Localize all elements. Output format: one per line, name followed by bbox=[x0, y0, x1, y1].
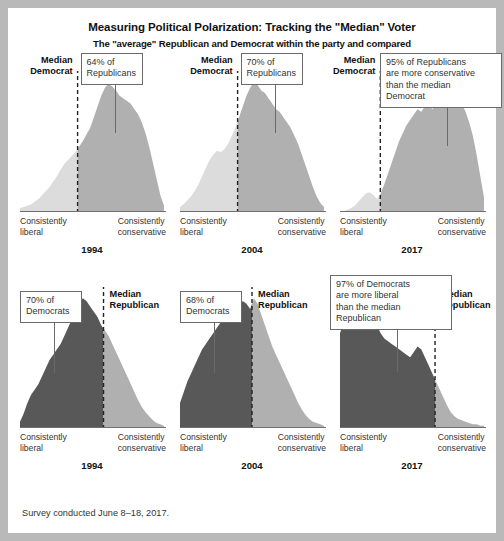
panel-year-label: 1994 bbox=[16, 460, 168, 471]
panel-republicans-2004: Consistently liberalConsistently conserv… bbox=[176, 53, 328, 265]
x-axis-line bbox=[20, 211, 166, 212]
median-label: Median Republican bbox=[258, 289, 308, 311]
callout-leader-line bbox=[54, 323, 55, 373]
callout-leader-line bbox=[397, 330, 398, 372]
axis-label-liberal: Consistently liberal bbox=[20, 432, 67, 453]
axis-label-conservative: Consistently conservative bbox=[278, 216, 326, 237]
panel-year-label: 2017 bbox=[336, 244, 488, 255]
callout-leader-line bbox=[275, 85, 276, 133]
panel-year-label: 2017 bbox=[336, 460, 488, 471]
median-label: Median Democrat bbox=[30, 55, 72, 77]
axis-label-liberal: Consistently liberal bbox=[180, 432, 227, 453]
callout-box: 70% of Republicans bbox=[241, 53, 303, 85]
panel-republicans-1994: Consistently liberalConsistently conserv… bbox=[16, 53, 168, 265]
x-axis-line bbox=[340, 211, 486, 212]
axis-label-liberal: Consistently liberal bbox=[340, 432, 387, 453]
panel-republicans-2017: Consistently liberalConsistently conserv… bbox=[336, 53, 488, 265]
panel-year-label: 1994 bbox=[16, 244, 168, 255]
axis-label-conservative: Consistently conservative bbox=[438, 432, 486, 453]
survey-note: Survey conducted June 8–18, 2017. bbox=[22, 508, 169, 518]
callout-box: 95% of Republicans are more conservative… bbox=[380, 53, 502, 108]
axis-label-liberal: Consistently liberal bbox=[340, 216, 387, 237]
axis-label-conservative: Consistently conservative bbox=[278, 432, 326, 453]
panel-democrats-2017: Consistently liberalConsistently conserv… bbox=[336, 269, 488, 481]
chart-row-democrats: Consistently liberalConsistently conserv… bbox=[8, 269, 496, 481]
panel-democrats-2004: Consistently liberalConsistently conserv… bbox=[176, 269, 328, 481]
chart-row-republicans: Consistently liberalConsistently conserv… bbox=[8, 53, 496, 265]
panel-year-label: 2004 bbox=[176, 460, 328, 471]
x-axis-line bbox=[180, 427, 326, 428]
x-axis-line bbox=[340, 427, 486, 428]
callout-box: 64% of Republicans bbox=[81, 53, 143, 85]
distribution-plot bbox=[176, 71, 328, 211]
callout-leader-line bbox=[115, 85, 116, 133]
area-right bbox=[20, 84, 164, 211]
infographic-page: Measuring Political Polarization: Tracki… bbox=[8, 8, 496, 533]
page-subtitle: The "average" Republican and Democrat wi… bbox=[8, 38, 496, 49]
median-label: Median Democrat bbox=[333, 55, 375, 77]
panel-year-label: 2004 bbox=[176, 244, 328, 255]
callout-box: 97% of Democrats are more liberal than t… bbox=[330, 275, 452, 330]
page-title: Measuring Political Polarization: Tracki… bbox=[8, 21, 496, 33]
distribution-plot bbox=[16, 71, 168, 211]
median-label: Median Democrat bbox=[190, 55, 232, 77]
x-axis-line bbox=[20, 427, 166, 428]
callout-leader-line bbox=[214, 323, 215, 373]
axis-label-conservative: Consistently conservative bbox=[118, 216, 166, 237]
x-axis-line bbox=[180, 211, 326, 212]
axis-label-conservative: Consistently conservative bbox=[118, 432, 166, 453]
median-label: Median Republican bbox=[110, 289, 160, 311]
axis-label-liberal: Consistently liberal bbox=[20, 216, 67, 237]
callout-box: 68% of Democrats bbox=[180, 291, 242, 323]
callout-box: 70% of Democrats bbox=[20, 291, 82, 323]
axis-label-liberal: Consistently liberal bbox=[180, 216, 227, 237]
callout-leader-line bbox=[447, 108, 448, 146]
axis-label-conservative: Consistently conservative bbox=[438, 216, 486, 237]
panel-democrats-1994: Consistently liberalConsistently conserv… bbox=[16, 269, 168, 481]
